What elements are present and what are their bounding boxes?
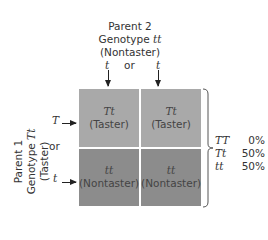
punnett-cell: Tt (Taster) <box>79 89 139 147</box>
punnett-cell: tt (Nontaster) <box>141 149 201 207</box>
result-row: Tt 50% <box>215 147 265 160</box>
parent2-label: Parent 2 Genotype tt (Nontaster) <box>60 20 200 59</box>
parent1-phenotype: (Taster) <box>38 142 50 182</box>
parent1-genotype: Tt <box>25 129 37 140</box>
arrow-right-icon <box>62 182 76 183</box>
cell-genotype: Tt <box>165 105 176 118</box>
parent1-allele-2: t <box>53 172 57 184</box>
punnett-cell: tt (Nontaster) <box>79 149 139 207</box>
parent2-or: or <box>124 59 135 71</box>
parent2-phenotype: (Nontaster) <box>100 46 160 58</box>
cell-phenotype: (Taster) <box>151 118 191 131</box>
punnett-cell: Tt (Taster) <box>141 89 201 147</box>
result-percent: 50% <box>239 160 265 173</box>
parent1-genotype-label: Genotype <box>25 143 37 194</box>
parent1-allele-1: T <box>52 114 59 126</box>
offspring-ratios: TT 0% Tt 50% tt 50% <box>215 134 265 173</box>
result-genotype: tt <box>215 160 233 173</box>
parent1-or: or <box>49 140 60 152</box>
result-genotype: Tt <box>215 147 233 160</box>
result-row: TT 0% <box>215 134 265 147</box>
parent2-genotype-label: Genotype <box>99 33 150 45</box>
punnett-square: Tt (Taster) Tt (Taster) tt (Nontaster) t… <box>79 89 199 206</box>
result-percent: 0% <box>239 134 265 147</box>
parent2-title: Parent 2 <box>108 20 152 32</box>
parent1-title: Parent 1 <box>12 140 24 184</box>
arrow-down-icon <box>108 70 109 86</box>
result-percent: 50% <box>239 147 265 160</box>
brace-icon <box>202 88 214 208</box>
cell-phenotype: (Nontaster) <box>141 177 201 190</box>
arrow-down-icon <box>158 70 159 86</box>
cell-genotype: tt <box>105 164 113 177</box>
cell-genotype: Tt <box>103 105 114 118</box>
result-row: tt 50% <box>215 160 265 173</box>
arrow-right-icon <box>62 123 76 124</box>
cell-genotype: tt <box>167 164 175 177</box>
parent1-label: Parent 1 Genotype Tt (Taster) <box>12 107 51 217</box>
parent2-genotype: tt <box>153 33 161 45</box>
cell-phenotype: (Taster) <box>89 118 129 131</box>
cell-phenotype: (Nontaster) <box>79 177 139 190</box>
result-genotype: TT <box>215 134 233 147</box>
